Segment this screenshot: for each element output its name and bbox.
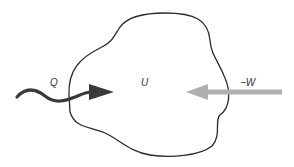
work-arrow [186, 84, 282, 100]
system-boundary [69, 13, 229, 156]
internal-energy-label: U [141, 77, 148, 88]
work-label: −W [240, 77, 255, 88]
heat-label: Q [50, 77, 58, 88]
heat-arrow [17, 84, 114, 101]
